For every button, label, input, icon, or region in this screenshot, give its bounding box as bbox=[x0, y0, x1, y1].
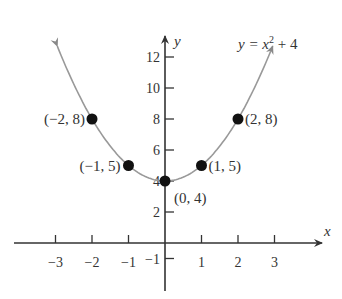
y-tick-label: 2 bbox=[153, 205, 160, 220]
data-point bbox=[160, 176, 171, 187]
equation-label: y = x2 + 4 bbox=[236, 34, 298, 52]
parabola-plot: xy −3−2−1123−124681012 (−2, 8)(−1, 5)(0,… bbox=[0, 0, 342, 299]
y-axis-label: y bbox=[172, 33, 181, 49]
data-point bbox=[87, 114, 98, 125]
x-axis-label: x bbox=[323, 223, 331, 239]
point-label: (1, 5) bbox=[209, 158, 242, 175]
y-tick-label: 10 bbox=[146, 81, 160, 96]
y-tick-label: 8 bbox=[153, 112, 160, 127]
x-tick-label: −2 bbox=[85, 255, 100, 270]
data-points: (−2, 8)(−1, 5)(0, 4)(1, 5)(2, 8) bbox=[44, 111, 277, 207]
x-tick-label: 1 bbox=[198, 255, 205, 270]
axes: xy bbox=[14, 33, 331, 291]
x-tick-label: −3 bbox=[48, 255, 63, 270]
y-tick-label: −1 bbox=[145, 252, 160, 267]
point-label: (−1, 5) bbox=[80, 158, 121, 175]
x-tick-label: −1 bbox=[121, 255, 136, 270]
point-label: (0, 4) bbox=[174, 190, 207, 207]
data-point bbox=[123, 160, 134, 171]
y-tick-label: 6 bbox=[153, 143, 160, 158]
point-label: (−2, 8) bbox=[44, 111, 85, 128]
point-label: (2, 8) bbox=[245, 111, 278, 128]
data-point bbox=[233, 114, 244, 125]
y-tick-label: 12 bbox=[146, 50, 160, 65]
x-tick-label: 3 bbox=[271, 255, 278, 270]
data-point bbox=[196, 160, 207, 171]
x-tick-label: 2 bbox=[235, 255, 242, 270]
y-tick-label: 4 bbox=[153, 174, 160, 189]
